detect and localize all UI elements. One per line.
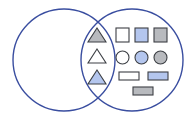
square-white (116, 28, 129, 42)
rectangle-blue (148, 72, 168, 80)
square-blue (135, 28, 148, 42)
circle-gray (154, 51, 167, 64)
rectangle-gray (133, 87, 153, 95)
circle-blue (135, 51, 148, 64)
triangle-blue (88, 70, 106, 84)
square-gray (154, 28, 167, 42)
rectangle-white (119, 72, 139, 80)
triangle-white (88, 49, 106, 63)
venn-diagram (0, 0, 192, 120)
circle-white (116, 51, 129, 64)
